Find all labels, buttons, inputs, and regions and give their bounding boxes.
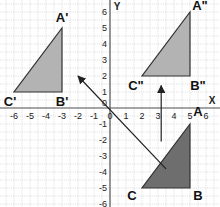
vertex-label: B" xyxy=(190,78,206,93)
x-tick-label: -3 xyxy=(58,111,66,121)
y-tick-label: -3 xyxy=(99,151,107,161)
y-tick-label: 1 xyxy=(102,87,107,97)
x-tick-label: 3 xyxy=(155,111,160,121)
x-tick-label: -5 xyxy=(26,111,34,121)
x-tick-label: 0 xyxy=(107,111,112,121)
vertex-label: A" xyxy=(192,0,208,13)
vertex-label: B xyxy=(193,188,202,203)
x-tick-label: 2 xyxy=(139,111,144,121)
y-tick-label: -6 xyxy=(99,199,107,207)
y-tick-label: 4 xyxy=(102,39,107,49)
arrow-translation-to-prime xyxy=(78,76,166,169)
vertex-label: C xyxy=(127,188,137,203)
vertex-label: C" xyxy=(128,78,144,93)
vertex-label: B' xyxy=(56,94,68,109)
y-tick-label: 3 xyxy=(102,55,107,65)
x-axis-label: X xyxy=(209,95,216,106)
x-tick-label: 6 xyxy=(203,111,208,121)
x-tick-label: -6 xyxy=(10,111,18,121)
y-tick-label: -5 xyxy=(99,183,107,193)
y-tick-label: -1 xyxy=(99,119,107,129)
vertex-label: A xyxy=(193,104,203,119)
triangle-original xyxy=(142,124,190,188)
x-tick-label: 5 xyxy=(187,111,192,121)
y-tick-label: -2 xyxy=(99,135,107,145)
y-tick-label: 2 xyxy=(102,71,107,81)
y-tick-label: -4 xyxy=(99,167,107,177)
x-tick-label: 1 xyxy=(123,111,128,121)
y-tick-label: 6 xyxy=(102,7,107,17)
y-axis-label: Y xyxy=(114,1,121,12)
y-tick-label: 5 xyxy=(102,23,107,33)
coordinate-plane: -6-5-4-3-2-10123456654321-1-2-3-4-5-60XY… xyxy=(0,0,220,207)
x-tick-label: -4 xyxy=(42,111,50,121)
x-tick-label: -2 xyxy=(74,111,82,121)
vertex-label: A' xyxy=(56,10,68,25)
vertex-label: C' xyxy=(4,94,16,109)
x-tick-label: 4 xyxy=(171,111,176,121)
x-tick-label: -1 xyxy=(90,111,98,121)
triangle-image-double-prime xyxy=(142,12,190,76)
